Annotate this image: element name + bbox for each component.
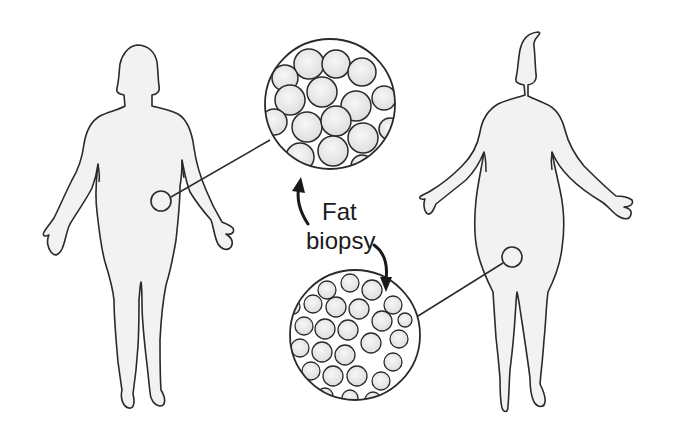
fat-biopsy-diagram: Fat biopsy	[0, 0, 698, 431]
left-biopsy-site-marker	[151, 191, 171, 211]
left-body-silhouette	[43, 45, 233, 408]
right-biopsy-site-marker	[502, 247, 522, 267]
right-body-silhouette	[420, 32, 633, 412]
label-biopsy: biopsy	[306, 229, 375, 253]
right-connector-line	[418, 263, 503, 316]
magnified-view-small-cells	[286, 270, 420, 408]
arrow-up-icon	[292, 177, 308, 224]
label-fat: Fat	[322, 200, 357, 224]
magnified-view-large-cells	[261, 39, 401, 177]
